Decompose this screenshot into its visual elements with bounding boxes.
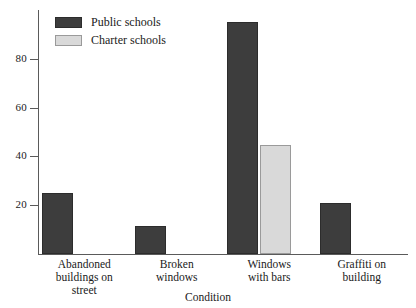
category-label-line: Abandoned <box>38 258 131 271</box>
bar-public-2 <box>227 22 258 254</box>
chart-legend: Public schools Charter schools <box>55 14 166 50</box>
category-label-line: Windows <box>223 258 316 271</box>
y-tick-label: 60 <box>0 102 27 113</box>
legend-label-charter: Charter schools <box>91 34 166 47</box>
bar-public-3 <box>320 203 351 254</box>
y-tick-label: 20 <box>0 199 27 210</box>
category-label-2: Windowswith bars <box>223 258 316 284</box>
bar-public-1 <box>135 226 166 254</box>
category-label-1: Brokenwindows <box>131 258 224 284</box>
legend-entry-public: Public schools <box>55 14 166 30</box>
bar-chart: 20406080 Public schools Charter schools … <box>0 0 416 308</box>
bar-public-0 <box>42 193 73 254</box>
category-label-line: windows <box>131 271 224 284</box>
category-label-line: with bars <box>223 271 316 284</box>
bar-charter-2 <box>260 145 291 254</box>
category-label-line: Graffiti on <box>316 258 409 271</box>
y-tick-label: 80 <box>0 53 27 64</box>
category-label-3: Graffiti onbuilding <box>316 258 409 284</box>
category-label-line: Broken <box>131 258 224 271</box>
y-tick-mark <box>30 108 38 109</box>
y-tick-label: 40 <box>0 150 27 161</box>
x-axis-title: Condition <box>0 291 416 304</box>
legend-entry-charter: Charter schools <box>55 32 166 48</box>
legend-label-public: Public schools <box>91 16 161 29</box>
x-axis-line <box>38 254 408 255</box>
y-tick-mark <box>30 59 38 60</box>
category-label-line: building <box>316 271 409 284</box>
y-tick-mark <box>30 156 38 157</box>
y-tick-mark <box>30 205 38 206</box>
dark-swatch-icon <box>55 17 82 28</box>
category-label-line: buildings on <box>38 271 131 284</box>
light-swatch-icon <box>55 35 82 46</box>
